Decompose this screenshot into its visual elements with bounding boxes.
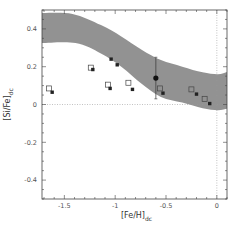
model-band	[42, 13, 227, 110]
filled-square-marker	[108, 87, 111, 90]
x-tick-label: -1	[112, 202, 118, 210]
filled-square-marker	[116, 63, 119, 66]
x-tick-label: -1.5	[58, 202, 71, 210]
open-square-marker	[47, 86, 52, 91]
filled-square-marker	[91, 68, 94, 71]
filled-square-marker	[208, 102, 211, 105]
filled-circle-marker	[153, 75, 158, 80]
filled-square-marker	[161, 91, 164, 94]
open-square-marker	[126, 80, 131, 85]
filled-square-marker	[131, 88, 134, 91]
y-tick-label: 0.2	[27, 63, 37, 71]
x-axis-title: [Fe/H]dc	[121, 211, 152, 222]
y-axis-title: [Si/Fe]dc	[3, 88, 14, 120]
si-fe-vs-fe-h-chart: -1.5-1-0.50-0.4-0.200.20.4 [Fe/H]dc [Si/…	[0, 0, 239, 226]
y-tick-label: 0	[33, 101, 37, 109]
model-band-area	[42, 13, 227, 110]
x-tick-label: -0.5	[160, 202, 173, 210]
filled-square-marker	[109, 57, 112, 60]
open-square-marker	[106, 82, 111, 87]
y-tick-label: -0.2	[24, 139, 37, 147]
y-tick-label: -0.4	[24, 176, 37, 184]
filled-square-marker	[195, 92, 198, 95]
y-tick-label: 0.4	[27, 25, 37, 33]
x-tick-label: 0	[215, 202, 219, 210]
filled-square-marker	[50, 91, 53, 94]
